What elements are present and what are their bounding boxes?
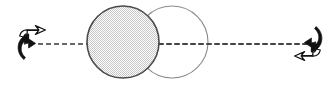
rotation-diagram-svg [0, 0, 336, 92]
shaded-circle [87, 6, 159, 78]
figure-canvas [0, 0, 336, 92]
